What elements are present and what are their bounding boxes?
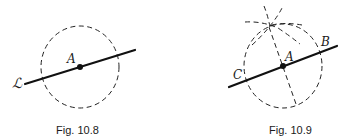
figure-10-9: A B C Fig. 10.9 xyxy=(229,6,337,136)
label-a: A xyxy=(284,50,294,64)
label-b: B xyxy=(320,35,330,49)
point-a-dot xyxy=(77,64,83,70)
label-a: A xyxy=(66,52,76,66)
label-line-l: ℒ xyxy=(12,75,23,91)
figure-10-8: A ℒ Fig. 10.8 xyxy=(12,26,135,136)
label-c: C xyxy=(233,68,242,82)
construction-diagrams: A ℒ Fig. 10.8 A B C Fig. 10.9 xyxy=(0,0,348,138)
caption-fig-10-9: Fig. 10.9 xyxy=(269,124,312,136)
arc-far-right xyxy=(272,24,302,26)
caption-fig-10-8: Fig. 10.8 xyxy=(56,124,99,136)
arc-right xyxy=(252,8,282,45)
